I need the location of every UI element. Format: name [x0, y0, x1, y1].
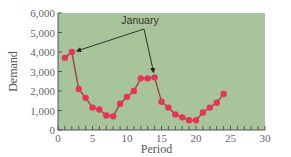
x-tick-label: 25 [225, 132, 237, 144]
y-axis-title: Demand [6, 51, 20, 92]
y-tick-label: 3,000 [30, 66, 55, 78]
data-point [165, 104, 171, 110]
data-point [62, 55, 68, 61]
data-point [186, 117, 192, 123]
data-point [82, 95, 88, 101]
data-point [220, 91, 226, 97]
plot-area [58, 13, 265, 130]
data-point [193, 117, 199, 123]
data-point [96, 106, 102, 112]
data-point [131, 88, 137, 94]
data-point [89, 104, 95, 110]
y-tick-label: 5,000 [30, 27, 55, 39]
demand-line-chart: 01,0002,0003,0004,0005,0006,000 05101520… [0, 0, 291, 157]
y-tick-label: 2,000 [30, 85, 55, 97]
data-point [110, 113, 116, 119]
x-tick-label: 5 [90, 132, 96, 144]
data-point [207, 104, 213, 110]
data-point [200, 109, 206, 115]
data-point [145, 75, 151, 81]
x-tick-label: 10 [122, 132, 134, 144]
data-point [214, 100, 220, 106]
data-point [138, 75, 144, 81]
x-tick-label: 30 [260, 132, 272, 144]
data-point [76, 86, 82, 92]
y-tick-label: 1,000 [30, 105, 55, 117]
data-point [69, 49, 75, 55]
y-tick-label: 4,000 [30, 46, 55, 58]
x-tick-label: 20 [191, 132, 203, 144]
data-point [103, 112, 109, 118]
data-point [117, 100, 123, 106]
data-point [158, 99, 164, 105]
annotation-label: January [121, 14, 159, 26]
x-axis-title: Period [141, 142, 172, 156]
x-tick-label: 0 [55, 132, 61, 144]
y-axis: 01,0002,0003,0004,0005,0006,000 [30, 7, 62, 136]
data-point [124, 94, 130, 100]
y-tick-label: 6,000 [30, 7, 55, 19]
data-point [179, 114, 185, 120]
data-point [151, 74, 157, 80]
data-point [172, 111, 178, 117]
